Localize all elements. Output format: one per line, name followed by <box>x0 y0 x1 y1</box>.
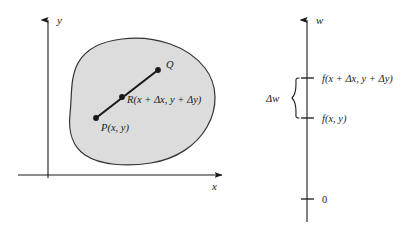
tick-label-zero: 0 <box>322 194 327 205</box>
point-label-R: R(x + Δx, y + Δy) <box>126 94 202 106</box>
right-panel-group: w f(x + Δx, y + Δy) f(x, y) 0 Δw <box>265 14 393 222</box>
point-marker-R <box>119 94 125 100</box>
delta-w-brace <box>292 78 299 118</box>
point-label-Q: Q <box>166 59 174 70</box>
w-axis-label: w <box>316 14 324 26</box>
figure-increment-of-function: y x Q R(x + Δx, y + Δy) P(x, y) w f(x + … <box>0 0 412 231</box>
tick-label-upper: f(x + Δx, y + Δy) <box>322 73 393 85</box>
y-axis-label: y <box>56 14 62 26</box>
delta-w-label: Δw <box>265 93 279 104</box>
tick-label-lower: f(x, y) <box>322 113 347 125</box>
figure-canvas: y x Q R(x + Δx, y + Δy) P(x, y) w f(x + … <box>0 0 412 231</box>
point-label-P: P(x, y) <box>100 122 129 134</box>
point-marker-Q <box>155 67 161 73</box>
left-panel-group: y x Q R(x + Δx, y + Δy) P(x, y) <box>18 14 222 192</box>
x-axis-label: x <box>211 180 217 192</box>
point-marker-P <box>93 115 99 121</box>
